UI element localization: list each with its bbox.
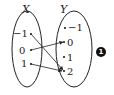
- set-x-ellipse: [12, 11, 42, 87]
- y-element-1: 1: [67, 52, 73, 63]
- y-point-0: [63, 41, 65, 43]
- y-element-2: 2: [67, 66, 73, 77]
- circled-number-badge: 1: [96, 47, 106, 57]
- arrow-0-to-0: [31, 42, 63, 50]
- x-element-neg1: −1: [13, 28, 28, 39]
- x-element-0: 0: [19, 45, 25, 56]
- arrow-neg1-to-2: [31, 34, 63, 70]
- y-point-1: [63, 56, 65, 58]
- y-point-2: [63, 70, 65, 72]
- y-element-0: 0: [67, 37, 73, 48]
- y-point-neg1: [64, 27, 66, 29]
- y-element-neg1: −1: [68, 22, 83, 33]
- set-y-label: Y: [60, 3, 69, 16]
- set-x-label: X: [21, 3, 31, 16]
- x-element-1: 1: [21, 58, 27, 69]
